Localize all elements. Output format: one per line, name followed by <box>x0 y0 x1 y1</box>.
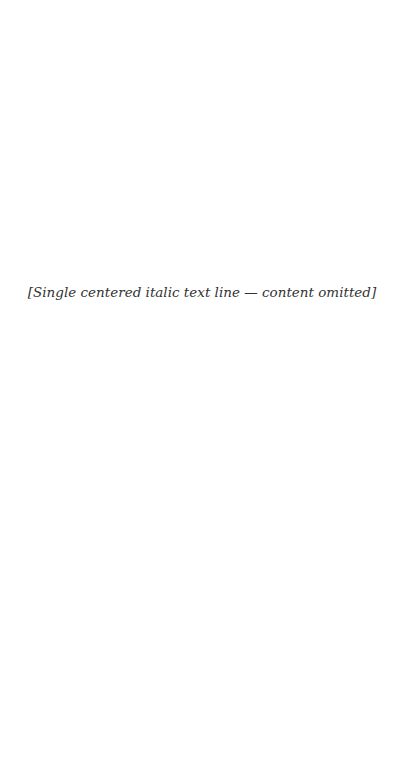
centered-quote: [Single centered italic text line — cont… <box>20 282 384 304</box>
page: [Single centered italic text line — cont… <box>0 0 404 768</box>
